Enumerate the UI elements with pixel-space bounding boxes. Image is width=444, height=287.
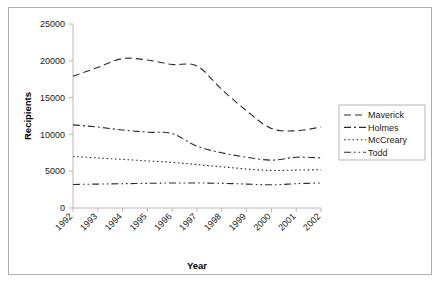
legend-label-maverick[interactable]: Maverick <box>368 110 405 120</box>
chart-frame: 0500010000150002000025000199219931994199… <box>8 7 432 275</box>
x-tick-label: 1997 <box>177 211 198 232</box>
y-tick-label: 25000 <box>40 19 65 29</box>
y-tick-label: 10000 <box>40 130 65 140</box>
x-tick-label: 2000 <box>252 211 273 232</box>
series-line-maverick <box>73 58 321 131</box>
x-axis-title: Year <box>187 260 207 271</box>
x-tick-label: 1992 <box>53 211 74 232</box>
x-tick-label: 1996 <box>152 211 173 232</box>
x-tick-label: 1995 <box>128 211 149 232</box>
line-chart: 0500010000150002000025000199219931994199… <box>9 8 433 276</box>
y-tick-label: 20000 <box>40 56 65 66</box>
y-tick-label: 15000 <box>40 93 65 103</box>
x-tick-label: 1999 <box>227 211 248 232</box>
x-tick-label: 1993 <box>78 211 99 232</box>
y-tick-label: 0 <box>60 203 65 213</box>
series-line-holmes <box>73 125 321 160</box>
legend-label-holmes[interactable]: Holmes <box>368 123 399 133</box>
x-tick-label: 1994 <box>103 211 124 232</box>
legend-label-todd[interactable]: Todd <box>368 148 388 158</box>
x-tick-label: 2002 <box>301 211 322 232</box>
series-line-todd <box>73 183 321 185</box>
y-tick-label: 5000 <box>45 166 65 176</box>
x-tick-label: 1998 <box>202 211 223 232</box>
y-axis-title: Recipients <box>22 92 33 140</box>
x-tick-label: 2001 <box>276 211 297 232</box>
legend-label-mccreary[interactable]: McCreary <box>368 135 408 145</box>
